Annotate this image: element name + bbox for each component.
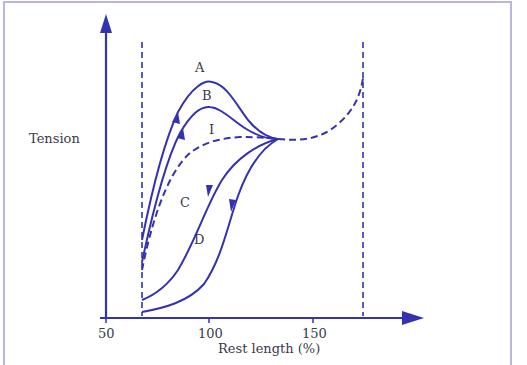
y-axis [100, 14, 112, 319]
curve-a-arrow-icon [172, 112, 180, 124]
x-tick-50: 50 [98, 326, 115, 341]
curve-i-extension [278, 78, 363, 140]
x-axis [100, 311, 424, 325]
y-axis-arrow-icon [100, 14, 112, 33]
y-axis-title: Tension [29, 131, 80, 146]
x-axis-title: Rest length (%) [218, 341, 320, 356]
curve-c-arrow-icon [206, 185, 213, 197]
x-axis-arrow-icon [402, 311, 424, 325]
curve-label-a: A [194, 60, 205, 75]
chart-canvas: A B I C D Tension 50 100 150 Rest length… [0, 0, 527, 365]
curve-d [142, 139, 278, 312]
curve-label-d: D [194, 232, 204, 247]
curve-label-i: I [209, 122, 214, 137]
curve-label-c: C [180, 195, 190, 210]
x-tick-150: 150 [302, 326, 327, 341]
curve-label-b: B [202, 88, 212, 103]
x-tick-100: 100 [198, 326, 223, 341]
curve-a [142, 82, 278, 240]
